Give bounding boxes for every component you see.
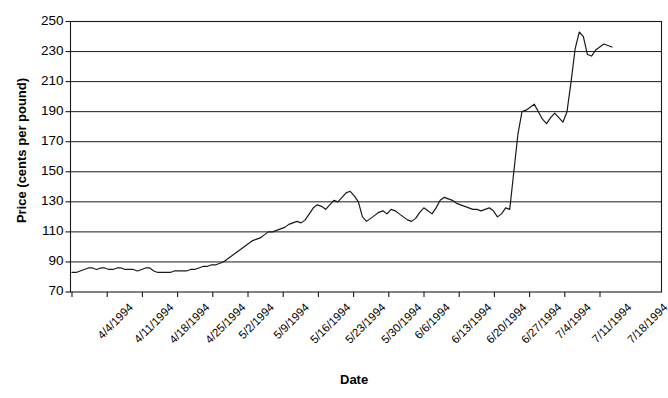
- y-tick-label: 190: [30, 103, 64, 118]
- y-tick-label: 110: [30, 223, 64, 238]
- y-axis-title: Price (cents per pound): [14, 26, 29, 276]
- y-tick-label: 150: [30, 163, 64, 178]
- y-tick-marks: [66, 22, 71, 293]
- plot-frame: [71, 22, 662, 293]
- y-tick-label: 250: [30, 13, 64, 28]
- price-series-line: [72, 32, 612, 272]
- gridlines: [71, 52, 662, 262]
- y-tick-label: 230: [30, 43, 64, 58]
- y-tick-label: 90: [30, 253, 64, 268]
- x-axis-title: Date: [340, 372, 368, 387]
- y-tick-label: 210: [30, 73, 64, 88]
- price-line-chart: Price (cents per pound) Date 70901101301…: [0, 0, 668, 398]
- y-tick-label: 70: [30, 283, 64, 298]
- x-tick-marks: [72, 292, 600, 297]
- y-tick-label: 130: [30, 193, 64, 208]
- y-tick-label: 170: [30, 133, 64, 148]
